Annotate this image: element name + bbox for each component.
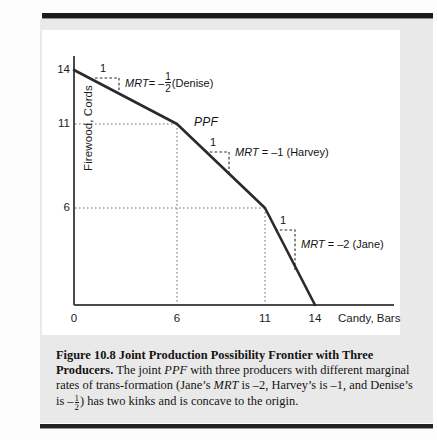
mrt-symbol-denise: MRT	[125, 77, 149, 89]
mrt-annotation-jane: MRT = –2 (Jane)	[301, 238, 384, 250]
ppf-curve	[74, 70, 315, 305]
mrt-symbol-harvey: MRT	[235, 146, 259, 158]
figure-number: Figure 10.8	[56, 348, 116, 362]
caption-fraction-denominator: 2	[75, 403, 80, 412]
rise-label-harvey: 1	[210, 136, 216, 148]
mrt-annotation-harvey: MRT = –1 (Harvey)	[235, 146, 329, 158]
mrt-equals-denise: = –	[149, 77, 165, 89]
ppf-svg	[42, 30, 400, 335]
caption-text-4: ) has two kinks and is concave to the or…	[80, 394, 298, 408]
y-tick-14: 14	[40, 63, 70, 75]
rise-label-denise: 1	[100, 62, 106, 74]
caption-text-1: The joint	[116, 363, 164, 377]
caption-mrt-term: MRT	[214, 378, 239, 392]
mrt-producer-harvey: (Harvey)	[286, 146, 328, 158]
caption-ppf-term: PPF	[164, 363, 187, 377]
figure-caption: Figure 10.8 Joint Production Possibility…	[56, 348, 422, 412]
figure-page: Firewood, Cords 14 11 6 0 6 11 14 Candy,…	[0, 0, 437, 440]
mrt-producer-denise: (Denise)	[172, 77, 214, 89]
x-axis-title: Candy, Bars	[338, 312, 400, 324]
caption-fraction: 1 2	[75, 394, 80, 412]
mrt-annotation-denise: MRT= – 1 2 (Denise)	[125, 72, 213, 94]
mrt-producer-jane: (Jane)	[352, 238, 383, 250]
chart-area: Firewood, Cords 14 11 6 0 6 11 14 Candy,…	[42, 30, 400, 335]
caption-fraction-numerator: 1	[75, 394, 80, 402]
x-tick-14: 14	[295, 312, 335, 324]
mrt-symbol-jane: MRT	[301, 238, 325, 250]
x-tick-6: 6	[157, 312, 197, 324]
bottom-rule	[40, 424, 433, 428]
y-axis-title: Firewood, Cords	[82, 68, 94, 188]
ppf-curve-label: PPF	[194, 115, 218, 129]
top-rule	[42, 13, 433, 18]
y-tick-6: 6	[40, 201, 70, 213]
ppf-plot: Firewood, Cords 14 11 6 0 6 11 14 Candy,…	[42, 30, 400, 335]
y-tick-11: 11	[40, 117, 70, 129]
rise-label-jane: 1	[280, 214, 286, 226]
fraction-denominator: 2	[165, 84, 171, 94]
x-tick-11: 11	[245, 312, 285, 324]
mrt-fraction-denise: 1 2	[165, 72, 171, 94]
x-tick-0: 0	[54, 312, 94, 324]
mrt-value-harvey: = –1	[262, 146, 284, 158]
fraction-numerator: 1	[165, 72, 171, 81]
mrt-value-jane: = –2	[328, 238, 350, 250]
